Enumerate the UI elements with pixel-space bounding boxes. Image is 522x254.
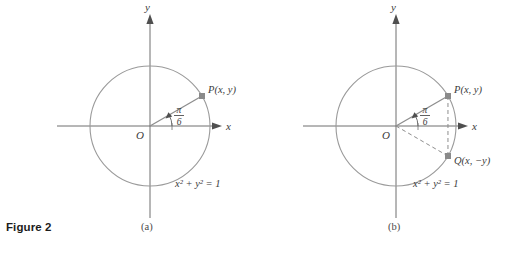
panel-b-sublabel: (b) <box>388 221 400 232</box>
unit-circle-figure: y x O π 6 P(x, y) x² + y² = 1 <box>0 0 522 254</box>
figure-container: y x O π 6 P(x, y) x² + y² = 1 <box>0 0 522 254</box>
panel-a: y x O π 6 P(x, y) x² + y² = 1 <box>57 1 236 218</box>
panel-a-y-axis-arrowhead <box>146 14 153 24</box>
panel-b-y-axis-arrowhead <box>392 14 399 24</box>
panel-a-point-p-label: P(x, y) <box>207 84 236 96</box>
panel-b-point-p-marker <box>445 93 451 99</box>
panel-b-angle-denominator: 6 <box>423 117 428 127</box>
panel-a-x-axis-label: x <box>225 120 231 132</box>
panel-a-y-axis-label: y <box>144 1 150 13</box>
panel-a-angle-numerator: π <box>177 105 182 115</box>
panel-b-radius-oq-dashed <box>396 126 448 156</box>
panel-b-x-axis-arrowhead <box>458 122 468 129</box>
panel-a-sublabel: (a) <box>141 221 153 232</box>
panel-b: y x O π 6 P(x, y) Q(x, −y) x² + y² = 1 <box>303 1 491 218</box>
panel-b-point-q-label: Q(x, −y) <box>454 155 491 167</box>
panel-b-y-axis-label: y <box>390 1 396 13</box>
panel-b-origin-label: O <box>382 129 390 141</box>
panel-b-point-p-label: P(x, y) <box>453 84 482 96</box>
panel-a-equation: x² + y² = 1 <box>174 178 221 189</box>
panel-b-point-q-marker <box>445 153 451 159</box>
panel-a-x-axis-arrowhead <box>212 122 222 129</box>
panel-b-x-axis-label: x <box>471 120 477 132</box>
panel-b-equation: x² + y² = 1 <box>412 178 459 189</box>
panel-a-origin-label: O <box>136 129 144 141</box>
figure-caption: Figure 2 <box>6 221 52 233</box>
panel-b-angle-numerator: π <box>423 105 428 115</box>
panel-a-angle-denominator: 6 <box>177 117 182 127</box>
panel-a-point-p-marker <box>199 93 205 99</box>
